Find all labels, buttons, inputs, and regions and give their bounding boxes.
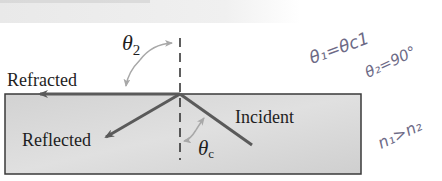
handwritten-n1-n2: n₁>n₂ xyxy=(375,115,426,152)
tir-diagram: θ2 Refracted Reflected Incident θc θ₁=θc… xyxy=(0,0,442,181)
handwritten-theta1: θ₁=θc1 xyxy=(307,28,372,68)
top-band xyxy=(0,0,300,23)
incident-label: Incident xyxy=(235,107,294,127)
theta2-arc xyxy=(140,43,172,60)
refracted-label: Refracted xyxy=(7,70,77,90)
theta2-label: θ2 xyxy=(122,30,140,58)
handwritten-theta2: θ₂=90° xyxy=(362,42,419,81)
reflected-label: Reflected xyxy=(22,130,91,150)
